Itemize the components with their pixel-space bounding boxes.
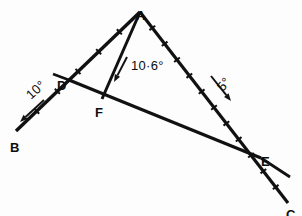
point-label-f: F: [95, 105, 103, 120]
point-label-d: D: [57, 78, 66, 93]
point-label-b: B: [10, 140, 19, 155]
point-label-c: C: [286, 207, 296, 216]
diagram-canvas: ABCDEF 10°10·6°5°: [0, 0, 302, 216]
angle-label-10-6: 10·6°: [131, 58, 164, 73]
point-label-e: E: [261, 154, 270, 169]
point-label-a: A: [136, 8, 146, 23]
ray-diagram-figure: ABCDEF 10°10·6°5°: [0, 0, 302, 216]
diagram-background: [0, 0, 302, 216]
